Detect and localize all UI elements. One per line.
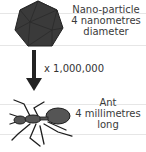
- down-arrow-icon: [26, 50, 42, 92]
- ant-label: Ant 4 millimetres long: [70, 97, 146, 130]
- nanoparticle-name: Nano-particle: [66, 4, 146, 15]
- ant-name: Ant: [70, 97, 146, 108]
- nanoparticle-label: Nano-particle 4 nanometres diameter: [66, 4, 146, 37]
- scale-factor: x 1,000,000: [44, 63, 104, 74]
- nanoparticle-size: 4 nanometres: [66, 15, 146, 26]
- ant-icon: [0, 94, 80, 149]
- nanoparticle-icosahedron-icon: [8, 0, 68, 50]
- ant-size: 4 millimetres: [70, 108, 146, 119]
- ant-measure: long: [70, 119, 146, 130]
- nanoparticle-measure: diameter: [66, 26, 146, 37]
